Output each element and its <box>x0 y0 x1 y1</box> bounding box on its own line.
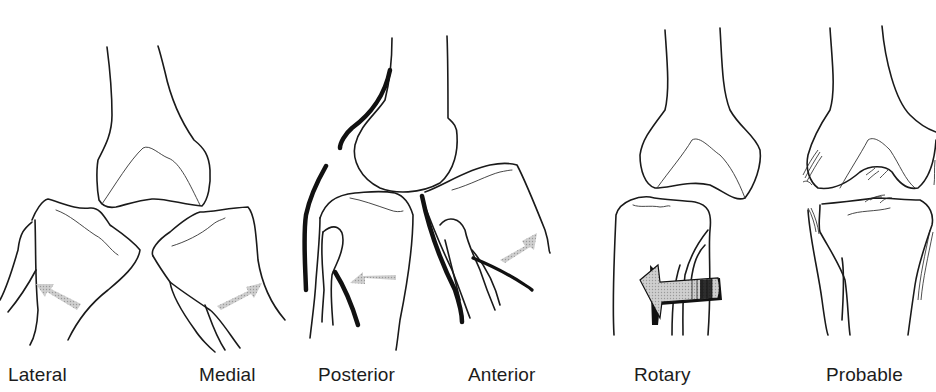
ligament-strands <box>803 150 935 300</box>
knee-dislocation-diagram <box>0 0 936 392</box>
label-probable: Probable <box>826 364 903 386</box>
label-medial: Medial <box>199 364 256 386</box>
panel-posterior-anterior <box>304 36 550 350</box>
panel-rotary <box>613 28 760 335</box>
label-posterior: Posterior <box>318 364 395 386</box>
femur-condyle-line <box>102 147 200 205</box>
anterior-ligament <box>422 196 462 322</box>
femur-rotary <box>640 28 760 199</box>
label-rotary: Rotary <box>634 364 691 386</box>
lateral-arrow-icon <box>36 284 81 310</box>
panel-lateral-medial <box>0 46 285 352</box>
tibia-medial <box>152 207 285 320</box>
anterior-arrow-icon <box>500 233 537 263</box>
femur <box>97 46 210 207</box>
label-lateral: Lateral <box>8 364 67 386</box>
label-anterior: Anterior <box>468 364 535 386</box>
medial-arrow-icon <box>217 283 262 310</box>
posterior-ligament <box>340 70 390 148</box>
tibia-rotary <box>613 197 710 335</box>
tibia-lateral <box>32 199 140 340</box>
panel-probable <box>803 26 936 335</box>
femur-probable <box>807 28 936 188</box>
posterior-arrow-icon <box>350 272 396 284</box>
